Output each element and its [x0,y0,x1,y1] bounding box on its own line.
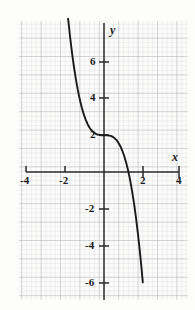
x-axis-label: x [172,151,178,163]
y-tick-label--6: -6 [85,277,94,288]
x-tick-label--2: -2 [59,175,68,186]
x-tick-label-2: 2 [140,175,146,186]
y-tick-label--2: -2 [85,203,94,214]
graph-figure: -4 -2 2 4 6 4 2 -2 -4 -6 x y [0,0,195,310]
y-tick-label-4: 4 [90,92,96,103]
x-tick-label-4: 4 [176,175,182,186]
y-tick-label--4: -4 [85,240,94,251]
coordinate-plane [0,0,195,310]
y-tick-label-6: 6 [90,56,96,67]
y-axis-label: y [110,24,115,36]
x-tick-label--4: -4 [20,175,29,186]
y-tick-label-2: 2 [90,129,96,140]
